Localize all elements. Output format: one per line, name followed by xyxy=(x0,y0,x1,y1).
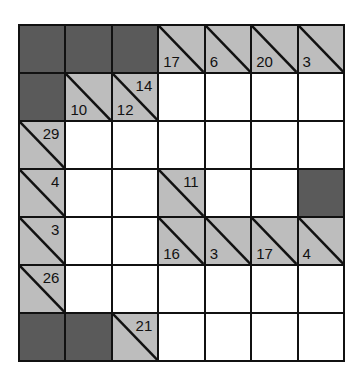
clue-cell: 29 xyxy=(20,122,64,168)
clue-cell: 26 xyxy=(20,266,64,312)
clue-cell: 1214 xyxy=(113,74,157,120)
kakuro-grid: 1762031012142941131631742621 xyxy=(18,24,345,362)
entry-cell[interactable] xyxy=(66,122,110,168)
clue-cell: 3 xyxy=(206,218,250,264)
entry-cell[interactable] xyxy=(206,266,250,312)
down-clue: 17 xyxy=(163,53,180,70)
clue-cell: 17 xyxy=(159,26,203,72)
entry-cell[interactable] xyxy=(252,170,296,216)
block-cell xyxy=(20,26,64,72)
entry-cell[interactable] xyxy=(252,74,296,120)
clue-cell: 4 xyxy=(299,218,343,264)
clue-cell: 3 xyxy=(20,218,64,264)
across-clue: 4 xyxy=(51,173,59,190)
across-clue: 26 xyxy=(43,269,60,286)
entry-cell[interactable] xyxy=(206,74,250,120)
entry-cell[interactable] xyxy=(159,314,203,360)
clue-cell: 16 xyxy=(159,218,203,264)
entry-cell[interactable] xyxy=(299,266,343,312)
down-clue: 3 xyxy=(303,53,311,70)
down-clue: 16 xyxy=(163,245,180,262)
entry-cell[interactable] xyxy=(206,122,250,168)
entry-cell[interactable] xyxy=(113,266,157,312)
across-clue: 14 xyxy=(136,77,153,94)
clue-cell: 11 xyxy=(159,170,203,216)
clue-cell: 6 xyxy=(206,26,250,72)
entry-cell[interactable] xyxy=(66,218,110,264)
across-clue: 21 xyxy=(136,317,153,334)
entry-cell[interactable] xyxy=(252,314,296,360)
down-clue: 12 xyxy=(117,101,134,118)
entry-cell[interactable] xyxy=(206,170,250,216)
down-clue: 17 xyxy=(256,245,273,262)
down-clue: 4 xyxy=(303,245,311,262)
clue-cell: 17 xyxy=(252,218,296,264)
entry-cell[interactable] xyxy=(206,314,250,360)
clue-cell: 4 xyxy=(20,170,64,216)
down-clue: 20 xyxy=(256,53,273,70)
across-clue: 3 xyxy=(51,221,59,238)
block-cell xyxy=(20,314,64,360)
block-cell xyxy=(299,170,343,216)
across-clue: 11 xyxy=(183,173,199,190)
block-cell xyxy=(66,26,110,72)
entry-cell[interactable] xyxy=(113,218,157,264)
entry-cell[interactable] xyxy=(159,266,203,312)
clue-cell: 10 xyxy=(66,74,110,120)
clue-cell: 20 xyxy=(252,26,296,72)
down-clue: 10 xyxy=(70,101,87,118)
across-clue: 29 xyxy=(43,125,60,142)
entry-cell[interactable] xyxy=(113,122,157,168)
entry-cell[interactable] xyxy=(299,74,343,120)
block-cell xyxy=(113,26,157,72)
entry-cell[interactable] xyxy=(299,122,343,168)
entry-cell[interactable] xyxy=(159,74,203,120)
down-clue: 6 xyxy=(210,53,218,70)
clue-cell: 21 xyxy=(113,314,157,360)
entry-cell[interactable] xyxy=(113,170,157,216)
entry-cell[interactable] xyxy=(252,266,296,312)
clue-cell: 3 xyxy=(299,26,343,72)
entry-cell[interactable] xyxy=(252,122,296,168)
down-clue: 3 xyxy=(210,245,218,262)
entry-cell[interactable] xyxy=(159,122,203,168)
block-cell xyxy=(20,74,64,120)
block-cell xyxy=(66,314,110,360)
entry-cell[interactable] xyxy=(66,266,110,312)
entry-cell[interactable] xyxy=(66,170,110,216)
entry-cell[interactable] xyxy=(299,314,343,360)
